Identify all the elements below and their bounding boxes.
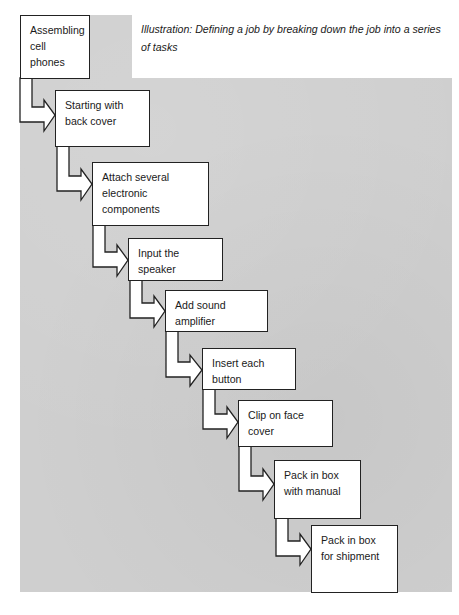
step-box-3: Attach several electronic components — [92, 162, 209, 226]
step-label: Insert each button — [212, 357, 264, 385]
bent-arrow-icon — [239, 446, 274, 500]
step-label: Input the speaker — [138, 247, 179, 275]
step-box-2: Starting with back cover — [55, 90, 150, 147]
bent-arrow-icon — [130, 280, 165, 327]
step-label: Clip on face cover — [248, 409, 304, 437]
step-box-6: Insert each button — [202, 348, 296, 390]
bent-arrow-icon — [57, 146, 92, 200]
step-box-8: Pack in box with manual — [274, 460, 361, 519]
step-box-7: Clip on face cover — [238, 400, 333, 447]
step-label: Pack in box for shipment — [321, 534, 379, 562]
bent-arrow-icon — [166, 331, 202, 386]
step-box-4: Input the speaker — [128, 238, 223, 281]
step-box-9: Pack in box for shipment — [311, 525, 398, 593]
bent-arrow-icon — [203, 389, 238, 438]
step-label: Add sound amplifier — [175, 299, 226, 327]
bent-arrow-icon — [93, 225, 128, 276]
step-label: Attach several electronic components — [102, 171, 169, 215]
step-label: Assembling cell phones — [30, 24, 85, 68]
step-label: Starting with back cover — [65, 99, 123, 127]
step-box-5: Add sound amplifier — [165, 290, 268, 332]
step-label: Pack in box with manual — [284, 469, 341, 497]
step-box-1: Assembling cell phones — [20, 15, 90, 79]
bent-arrow-icon — [20, 78, 55, 131]
bent-arrow-icon — [276, 518, 311, 565]
